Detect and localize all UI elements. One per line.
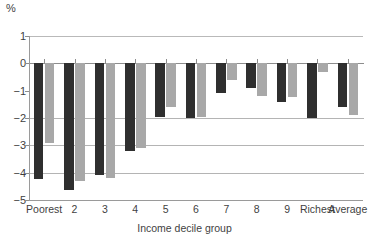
plot-baseline [29, 200, 363, 201]
bar [227, 63, 237, 79]
x-tick-label: 6 [193, 203, 199, 215]
x-tick-mark [135, 59, 136, 63]
bar [125, 63, 135, 150]
y-tick-label: 1 [4, 30, 26, 42]
x-tick-label: 5 [163, 203, 169, 215]
x-tick-label: 4 [132, 203, 138, 215]
y-tick-label: −3 [4, 139, 26, 151]
y-tick-label: 0 [4, 57, 26, 69]
bar [277, 63, 287, 101]
x-tick-mark [348, 59, 349, 63]
x-tick-label: Average [328, 203, 367, 215]
x-tick-mark [196, 59, 197, 63]
bar [166, 63, 176, 107]
bar [197, 63, 207, 116]
bar [246, 63, 256, 88]
x-tick-label: 7 [223, 203, 229, 215]
bar [216, 63, 226, 93]
x-tick-mark [257, 59, 258, 63]
x-tick-mark [317, 59, 318, 63]
bar [136, 63, 146, 148]
bar [155, 63, 165, 116]
x-tick-label: 3 [102, 203, 108, 215]
x-axis-title: Income decile group [0, 222, 369, 234]
bar [349, 63, 359, 115]
bar [318, 63, 328, 71]
bar [338, 63, 348, 107]
bar [106, 63, 116, 178]
bar [257, 63, 267, 96]
y-tick-label: −1 [4, 85, 26, 97]
x-tick-mark [44, 59, 45, 63]
bar-chart: % 10−1−2−3−4−5 Poorest23456789RichestAve… [0, 0, 369, 242]
y-tick-label: −2 [4, 112, 26, 124]
y-axis-ticks: 10−1−2−3−4−5 [0, 0, 26, 242]
x-tick-mark [226, 59, 227, 63]
x-tick-mark [75, 59, 76, 63]
x-tick-label: 2 [72, 203, 78, 215]
bar [95, 63, 105, 175]
x-tick-label: Poorest [26, 203, 62, 215]
y-tick-label: −4 [4, 167, 26, 179]
bar [34, 63, 44, 179]
bar [64, 63, 74, 190]
x-axis-labels: Poorest23456789RichestAverage [29, 203, 363, 219]
x-tick-label: 8 [254, 203, 260, 215]
bar [45, 63, 55, 142]
bar [75, 63, 85, 181]
x-tick-mark [287, 59, 288, 63]
x-tick-mark [105, 59, 106, 63]
bar [307, 63, 317, 118]
bar [186, 63, 196, 118]
bars-layer [29, 36, 363, 200]
x-tick-label: 9 [284, 203, 290, 215]
bar [288, 63, 298, 97]
y-tick-label: −5 [4, 194, 26, 206]
x-tick-mark [166, 59, 167, 63]
